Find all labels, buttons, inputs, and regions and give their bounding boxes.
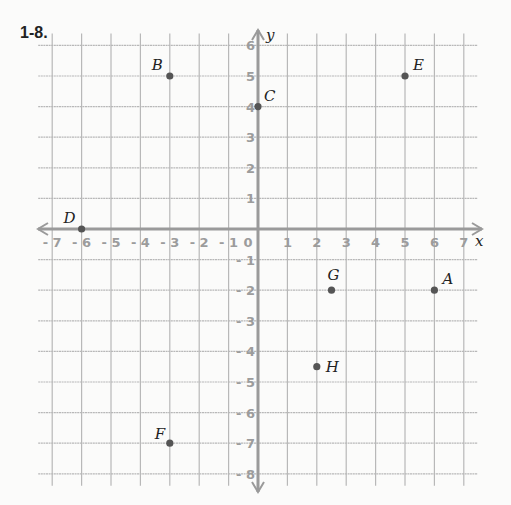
x-tick-label: - 6	[72, 235, 91, 250]
x-tick-label: 5	[400, 235, 409, 250]
point-a	[431, 287, 438, 294]
x-axis-label: x	[475, 232, 484, 250]
point-h	[313, 363, 320, 370]
point-label-c: C	[264, 87, 276, 105]
point-g	[328, 287, 335, 294]
y-tick-label: - 1	[236, 253, 255, 268]
x-tick-label: 3	[342, 235, 351, 250]
y-tick-label: - 5	[236, 375, 255, 390]
x-tick-label: - 3	[160, 235, 179, 250]
y-tick-label: 3	[246, 130, 255, 145]
x-tick-label: - 2	[190, 235, 209, 250]
y-tick-label: 4	[246, 100, 255, 115]
y-tick-label: 5	[246, 69, 255, 84]
x-tick-label: - 7	[43, 235, 62, 250]
x-tick-label: 4	[371, 235, 380, 250]
y-tick-label: - 7	[236, 436, 255, 451]
y-tick-label: 6	[246, 38, 255, 53]
point-c	[254, 103, 261, 110]
point-label-a: A	[440, 270, 453, 288]
point-label-b: B	[151, 56, 163, 74]
y-tick-label: - 2	[236, 283, 255, 298]
y-tick-label: 1	[246, 191, 255, 206]
y-tick-label: - 4	[236, 344, 255, 359]
y-axis-label: y	[265, 26, 275, 44]
y-tick-label: 2	[246, 161, 255, 176]
point-f	[166, 440, 173, 447]
x-tick-label: 0	[243, 235, 252, 250]
x-tick-label: 6	[430, 235, 439, 250]
point-b	[166, 72, 173, 79]
x-tick-label: - 5	[102, 235, 121, 250]
y-tick-label: - 3	[236, 314, 255, 329]
point-label-g: G	[328, 266, 340, 284]
x-tick-label: 7	[459, 235, 468, 250]
x-tick-label: - 4	[131, 235, 150, 250]
y-tick-label: - 6	[236, 406, 255, 421]
x-tick-label: - 1	[219, 235, 238, 250]
point-label-f: F	[154, 425, 166, 443]
x-tick-label: 2	[312, 235, 321, 250]
x-tick-label: 1	[283, 235, 292, 250]
point-label-h: H	[325, 358, 340, 376]
point-label-e: E	[412, 56, 424, 74]
y-tick-label: - 8	[236, 467, 255, 482]
point-label-d: D	[63, 209, 76, 227]
coordinate-plane: xy- 7- 6- 5- 4- 3- 2- 101234567- 8- 7- 6…	[0, 0, 511, 505]
point-e	[401, 72, 408, 79]
point-d	[78, 225, 85, 232]
